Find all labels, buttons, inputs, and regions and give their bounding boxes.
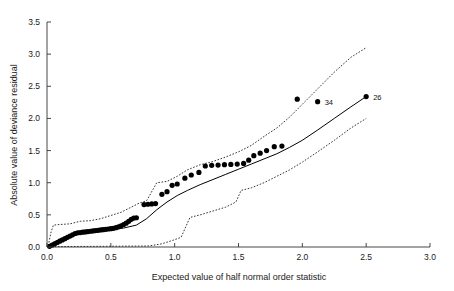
data-point [295,97,300,102]
data-point [215,162,220,167]
data-point [134,215,139,220]
axes-group: 0.00.51.01.52.02.53.00.00.51.01.52.02.53… [28,17,436,262]
data-point [196,170,201,175]
y-tick-label: 1.0 [28,178,40,188]
data-point [279,143,284,148]
x-tick-label: 1.0 [169,252,181,262]
data-point [164,189,169,194]
point-label: 26 [373,93,381,102]
y-tick-label: 3.5 [28,17,40,27]
mean-curve [47,97,366,247]
half-normal-plot-figure: 3426 0.00.51.01.52.02.53.00.00.51.01.52.… [0,0,454,291]
y-tick-label: 1.5 [28,146,40,156]
data-point-group [47,94,369,249]
data-point [364,94,369,99]
y-tick-label: 2.5 [28,81,40,91]
x-tick-label: 1.5 [233,252,245,262]
data-point [209,163,214,168]
simulation-envelopes [48,48,366,247]
data-point [272,144,277,149]
data-point [189,172,194,177]
point-annotations: 3426 [325,93,382,107]
x-axis-title: Expected value of half normal order stat… [152,272,327,282]
y-tick-label: 2.0 [28,113,40,123]
x-tick-label: 0.0 [41,252,53,262]
data-point [228,162,233,167]
x-tick-label: 2.5 [360,252,372,262]
y-tick-label: 0.0 [28,242,40,252]
simulated-mean-line [47,97,366,247]
data-point [241,161,246,166]
envelope-curve [48,118,366,246]
data-point [315,99,320,104]
point-label: 34 [325,98,333,107]
x-tick-label: 3.0 [424,252,436,262]
y-axis-title: Absolute value of deviance residual [9,64,19,206]
data-point [159,192,164,197]
data-point [203,163,208,168]
envelope-curve [48,48,366,246]
data-point [170,183,175,188]
data-point [235,161,240,166]
y-tick-label: 3.0 [28,49,40,59]
data-point [246,158,251,163]
data-point [222,162,227,167]
x-tick-label: 2.0 [296,252,308,262]
chart-canvas: 3426 0.00.51.01.52.02.53.00.00.51.01.52.… [0,0,454,291]
data-point [182,176,187,181]
data-point [153,201,158,206]
data-point [258,151,263,156]
data-point [251,153,256,158]
x-tick-label: 0.5 [105,252,117,262]
data-point [175,181,180,186]
data-point [264,148,269,153]
y-tick-label: 0.5 [28,210,40,220]
